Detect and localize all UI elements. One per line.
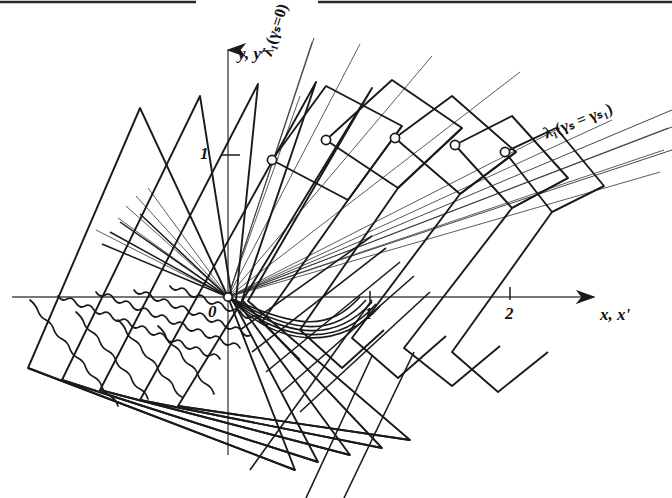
node-point bbox=[450, 140, 459, 149]
lambda1-gammas1-line bbox=[228, 127, 672, 297]
node-point bbox=[390, 133, 399, 142]
figure-canvas: x, x' y, y' 0 1 2 1 λ₁(γₛ=0) λ₁(γₛ = γₛ₁… bbox=[0, 0, 672, 498]
node-point bbox=[500, 147, 509, 156]
edge-5 bbox=[552, 186, 604, 212]
y-tick-label-1: 1 bbox=[200, 144, 209, 164]
wavy-7 bbox=[118, 320, 182, 397]
wavy-crack-lines bbox=[30, 286, 269, 406]
origin-rays bbox=[96, 42, 668, 297]
unit-cell-lattice bbox=[272, 80, 604, 212]
cell-e bbox=[505, 128, 604, 212]
x-tick-label-1: 1 bbox=[364, 304, 373, 324]
edge-4 bbox=[512, 178, 568, 208]
fold-shapes bbox=[262, 126, 604, 392]
diagram-svg bbox=[0, 0, 672, 498]
x-axis-label: x, x' bbox=[600, 305, 630, 325]
origin-marker bbox=[224, 293, 232, 301]
lambda-guide-lines bbox=[228, 38, 672, 297]
fold-2 bbox=[300, 188, 398, 368]
wavy-5 bbox=[30, 300, 118, 406]
edge-2 bbox=[398, 128, 462, 188]
node-point bbox=[267, 155, 276, 164]
wavy-6 bbox=[76, 312, 148, 399]
node-point bbox=[321, 135, 330, 144]
inner-fold-edges bbox=[28, 368, 410, 470]
wavy-1 bbox=[58, 296, 220, 359]
x-tick-label-2: 2 bbox=[505, 304, 514, 324]
origin-label: 0 bbox=[208, 302, 217, 322]
fold-5 bbox=[452, 212, 552, 392]
